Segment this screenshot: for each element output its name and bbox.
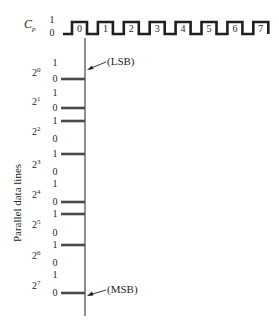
data-line-weight-label: 25	[32, 217, 41, 230]
weight-exponent: 4	[37, 188, 41, 196]
data-line-level-high: 1	[50, 58, 60, 68]
lsb-label: (LSB)	[107, 56, 135, 67]
data-line-level-high: 1	[50, 179, 60, 189]
weight-exponent: 2	[37, 125, 41, 133]
data-line-level-low: 0	[50, 103, 60, 113]
clock-label: Cp	[24, 17, 36, 33]
data-line-level-high: 1	[50, 149, 60, 159]
data-line-weight-label: 23	[32, 157, 41, 170]
clock-pulse-label: 0	[77, 24, 82, 34]
parallel-data-timing-diagram: Cp 1 0 01234567 102010211022102310241025…	[0, 0, 279, 330]
weight-exponent: 5	[37, 218, 41, 226]
data-line-level-high: 1	[50, 116, 60, 126]
msb-arrowhead	[87, 292, 94, 297]
data-line-level-low: 0	[50, 288, 60, 298]
clock-pulse-label: 5	[207, 24, 212, 34]
weight-exponent: 3	[37, 158, 41, 166]
clock-label-sub: p	[32, 25, 36, 33]
weight-exponent: 1	[37, 95, 41, 103]
clock-level-high: 1	[47, 15, 57, 25]
data-line-level-high: 1	[50, 209, 60, 219]
data-line-weight-label: 27	[32, 278, 41, 291]
data-line-level-low: 0	[50, 228, 60, 238]
clock-level-low: 0	[47, 28, 57, 38]
diagram-graphics	[0, 0, 279, 330]
axis-title: Parallel data lines	[11, 148, 23, 258]
weight-exponent: 6	[37, 249, 41, 257]
clock-pulse-label: 6	[232, 24, 237, 34]
clock-label-main: C	[24, 17, 32, 31]
clock-pulse-label: 7	[258, 24, 263, 34]
data-line-weight-label: 26	[32, 248, 41, 261]
data-line-level-low: 0	[50, 134, 60, 144]
clock-pulse-label: 4	[181, 24, 186, 34]
lsb-arrowhead	[87, 66, 94, 71]
data-line-level-high: 1	[50, 88, 60, 98]
data-line-level-low: 0	[50, 258, 60, 268]
weight-exponent: 7	[37, 279, 41, 287]
clock-pulse-label: 2	[129, 24, 134, 34]
data-line-weight-label: 24	[32, 187, 41, 200]
data-line-level-low: 0	[50, 167, 60, 177]
msb-label: (MSB)	[107, 284, 138, 295]
clock-pulse-label: 3	[155, 24, 160, 34]
data-line-weight-label: 21	[32, 94, 41, 107]
data-line-weight-label: 22	[32, 124, 41, 137]
weight-exponent: 0	[37, 66, 41, 74]
data-line-level-high: 1	[50, 270, 60, 280]
data-bit-bars	[61, 79, 85, 293]
clock-waveform	[63, 22, 268, 34]
data-line-level-low: 0	[50, 74, 60, 84]
data-line-level-high: 1	[50, 240, 60, 250]
data-line-weight-label: 20	[32, 65, 41, 78]
clock-pulse-label: 1	[103, 24, 108, 34]
data-line-level-low: 0	[50, 197, 60, 207]
